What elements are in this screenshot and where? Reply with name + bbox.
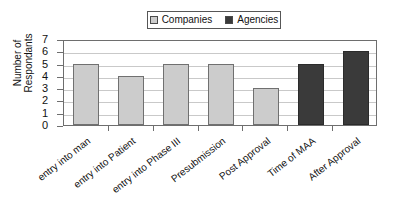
x-axis-label: Time of MAA — [232, 135, 318, 205]
x-axis-label: After Approval — [276, 135, 362, 205]
x-axis-labels: entry into manentry into Patiententry in… — [0, 0, 395, 207]
x-axis-label: entry into man — [7, 135, 93, 205]
x-axis-label: entry into Phase III — [97, 135, 183, 205]
x-axis-label: Presubmission — [142, 135, 228, 205]
x-axis-label: entry into Patient — [52, 135, 138, 205]
bar-chart: Companies Agencies Number of Respondants… — [0, 0, 395, 207]
x-axis-label: Post Approval — [187, 135, 273, 205]
